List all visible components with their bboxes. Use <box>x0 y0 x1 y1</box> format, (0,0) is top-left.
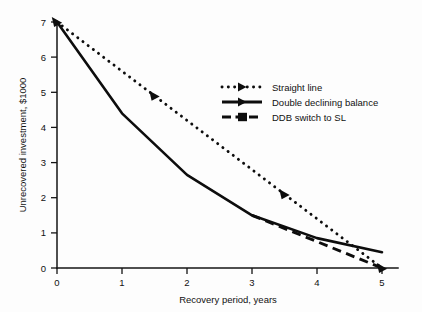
legend-item-double-declining-balance: Double declining balance <box>222 97 378 108</box>
x-tick-label: 4 <box>314 277 319 288</box>
data-point-marker-triangle-icon <box>279 189 289 199</box>
legend-marker-triangle-icon <box>238 98 247 107</box>
legend-label-straight-line: Straight line <box>272 82 322 93</box>
y-tick-label: 4 <box>41 122 46 133</box>
series-layer <box>52 17 387 273</box>
y-axis: 0 1 2 3 4 5 6 7 Unrecovered investment, … <box>17 17 57 274</box>
y-tick-label: 6 <box>41 52 46 63</box>
y-tick-label: 2 <box>41 192 46 203</box>
series-double-declining-balance <box>57 22 382 252</box>
x-axis: 0 1 2 3 4 5 Recovery period, years <box>54 268 398 305</box>
x-tick-label: 0 <box>54 277 59 288</box>
data-point-marker-triangle-icon <box>149 91 159 101</box>
x-tick-marks <box>57 268 382 274</box>
series-ddb-switch-to-sl <box>252 215 382 268</box>
y-tick-labels: 0 1 2 3 4 5 6 7 <box>41 17 46 274</box>
x-tick-label: 5 <box>379 277 384 288</box>
figure-container: 0 1 2 3 4 5 6 7 Unrecovered investment, … <box>0 0 422 312</box>
y-tick-label: 5 <box>41 87 46 98</box>
legend-label-double-declining-balance: Double declining balance <box>272 97 378 108</box>
y-tick-label: 3 <box>41 157 46 168</box>
x-tick-labels: 0 1 2 3 4 5 <box>54 277 384 288</box>
y-tick-label: 0 <box>41 263 46 274</box>
y-tick-label: 7 <box>41 17 46 28</box>
y-axis-title: Unrecovered investment, $1000 <box>17 78 28 213</box>
chart-legend: Straight line Double declining balance D… <box>222 82 378 123</box>
legend-item-straight-line: Straight line <box>222 82 322 93</box>
series-straight-line <box>57 22 382 268</box>
legend-marker-triangle-icon <box>238 82 247 91</box>
x-tick-label: 2 <box>184 277 189 288</box>
x-axis-title: Recovery period, years <box>179 294 277 305</box>
chart-canvas: 0 1 2 3 4 5 6 7 Unrecovered investment, … <box>0 0 422 312</box>
x-tick-label: 1 <box>119 277 124 288</box>
legend-marker-square-icon <box>238 113 247 121</box>
legend-item-ddb-switch-to-sl: DDB switch to SL <box>222 112 346 123</box>
y-tick-marks <box>51 22 57 268</box>
y-tick-label: 1 <box>41 227 46 238</box>
legend-label-ddb-switch-to-sl: DDB switch to SL <box>272 112 346 123</box>
x-tick-label: 3 <box>249 277 254 288</box>
